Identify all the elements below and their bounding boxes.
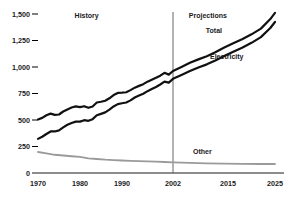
x-tick-label-1990: 1990: [102, 179, 142, 188]
series-line-total: [38, 13, 275, 120]
x-tick-label-2002: 2002: [153, 179, 193, 188]
x-tick-label-1980: 1980: [60, 179, 100, 188]
projections-label: Projections: [189, 12, 227, 19]
y-tick-label-250: 250: [18, 142, 30, 151]
electricity-label: Electricity: [210, 53, 243, 60]
x-tick-label-2015: 2015: [208, 179, 248, 188]
x-tick-label-2025: 2025: [255, 179, 289, 188]
total-label: Total: [206, 27, 222, 34]
y-tick-label-1500: 1,500: [12, 10, 30, 19]
x-tick-label-1970: 1970: [18, 179, 58, 188]
y-tick-label-500: 500: [18, 116, 30, 125]
plot-area: [0, 0, 289, 200]
other-label: Other: [193, 148, 212, 155]
y-tick-marks: [32, 14, 38, 147]
history-label: History: [75, 12, 99, 19]
line-chart: 02505007501,0001,2501,500 19701980199020…: [0, 0, 289, 200]
y-tick-label-1250: 1,250: [12, 36, 30, 45]
series-line-other: [38, 152, 275, 164]
y-tick-label-750: 750: [18, 89, 30, 98]
y-tick-label-0: 0: [26, 169, 30, 178]
y-tick-label-1000: 1,000: [12, 63, 30, 72]
